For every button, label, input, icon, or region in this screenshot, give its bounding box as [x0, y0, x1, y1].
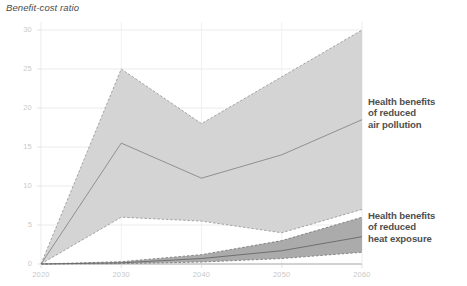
x-tick-label: 2050 [262, 270, 302, 279]
y-tick-label: 30 [8, 25, 32, 34]
y-tick-label: 0 [8, 259, 32, 268]
x-tick-label: 2060 [342, 270, 382, 279]
y-tick-label: 15 [8, 142, 32, 151]
x-tick-marks [41, 264, 362, 268]
y-tick-label: 5 [8, 220, 32, 229]
series-label-air-pollution: Health benefits of reduced air pollution [368, 96, 435, 130]
y-tick-label: 10 [8, 181, 32, 190]
x-tick-label: 2040 [182, 270, 222, 279]
x-tick-label: 2030 [101, 270, 141, 279]
benefit-cost-ratio-chart: Benefit-cost ratio 051015202530 20202030… [0, 0, 467, 286]
y-tick-label: 20 [8, 103, 32, 112]
x-tick-label: 2020 [21, 270, 61, 279]
series-label-heat-exposure: Health benefits of reduced heat exposure [368, 210, 435, 244]
y-tick-label: 25 [8, 64, 32, 73]
